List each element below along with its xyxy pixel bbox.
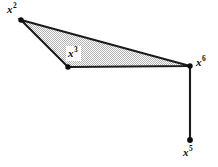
vertex-label-x5-base: x: [183, 146, 189, 158]
vertex-label-x3: x3: [66, 46, 81, 61]
vertex-dot-x5: [187, 137, 193, 143]
vertex-label-x6-base: x: [196, 56, 202, 68]
vertex-label-x3-base: x: [68, 47, 74, 59]
vertex-dot-x6: [187, 63, 192, 68]
geometry-diagram: [0, 0, 218, 167]
vertex-label-x6: x6: [196, 57, 206, 68]
vertex-label-x5-superscript: 5: [189, 144, 193, 153]
vertex-label-x2: x2: [7, 4, 17, 15]
vertex-label-x2-base: x: [7, 3, 13, 15]
vertex-dot-x3: [65, 64, 70, 69]
vertex-label-x2-superscript: 2: [13, 1, 17, 10]
vertex-dot-x2: [18, 17, 23, 22]
vertex-label-x6-superscript: 6: [202, 54, 206, 63]
vertex-label-x5: x5: [183, 147, 193, 158]
vertex-label-x3-superscript: 3: [74, 45, 78, 54]
figure-container: x2 x3 x6 x5: [0, 0, 218, 167]
